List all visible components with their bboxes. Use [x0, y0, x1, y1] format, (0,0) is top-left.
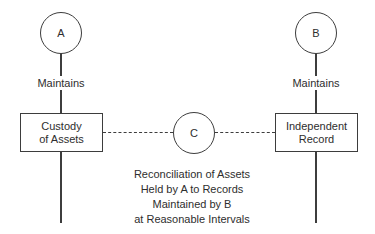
entity-label-b: B	[312, 27, 319, 39]
dashed-connector-custody-to-c	[103, 132, 173, 133]
entity-circle-a: A	[40, 12, 82, 54]
custody-of-assets-box: Custody of Assets	[20, 113, 103, 152]
caption-line-3: Maintained by B	[134, 197, 250, 212]
caption-line-2: Held by A to Records	[134, 182, 250, 197]
connector-record-down	[315, 152, 317, 223]
custody-box-line2: of Assets	[39, 133, 84, 146]
caption-line-1: Reconciliation of Assets	[134, 167, 250, 182]
entity-circle-c: C	[173, 112, 215, 154]
entity-label-a: A	[57, 27, 64, 39]
flow-diagram: A B Maintains Maintains Custody of Asset…	[0, 0, 375, 234]
independent-record-box: Independent Record	[275, 113, 358, 152]
connector-custody-down	[60, 152, 62, 223]
entity-label-c: C	[190, 127, 198, 139]
dashed-connector-c-to-record	[215, 132, 275, 133]
custody-box-line1: Custody	[41, 120, 81, 133]
independent-box-line1: Independent	[286, 120, 347, 133]
entity-circle-b: B	[295, 12, 337, 54]
maintains-label-left: Maintains	[34, 76, 87, 90]
caption-line-4: at Reasonable Intervals	[134, 212, 250, 227]
maintains-label-right: Maintains	[289, 76, 342, 90]
reconciliation-caption: Reconciliation of Assets Held by A to Re…	[134, 167, 250, 227]
independent-box-line2: Record	[299, 133, 334, 146]
